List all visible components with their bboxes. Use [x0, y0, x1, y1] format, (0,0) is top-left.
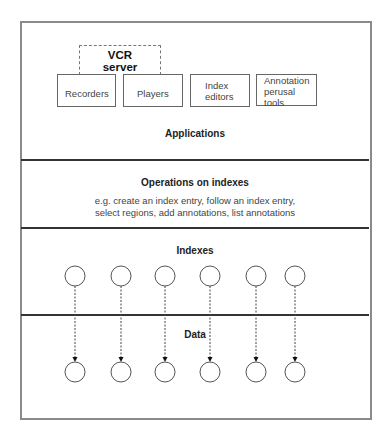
arrowhead-icon: [208, 357, 213, 362]
arrowhead-icon: [163, 357, 168, 362]
data-node-6: [285, 362, 305, 382]
data-node-5: [246, 362, 266, 382]
data-node-4: [200, 362, 220, 382]
arrowhead-icon: [293, 357, 298, 362]
index-node-3: [155, 266, 175, 286]
index-node-5: [246, 266, 266, 286]
arrowhead-icon: [254, 357, 259, 362]
data-node-2: [111, 362, 131, 382]
index-data-links: [0, 0, 389, 437]
index-node-1: [65, 266, 85, 286]
index-node-4: [200, 266, 220, 286]
index-node-2: [111, 266, 131, 286]
index-node-6: [285, 266, 305, 286]
data-node-3: [155, 362, 175, 382]
data-node-1: [65, 362, 85, 382]
arrowhead-icon: [73, 357, 78, 362]
arrowhead-icon: [119, 357, 124, 362]
